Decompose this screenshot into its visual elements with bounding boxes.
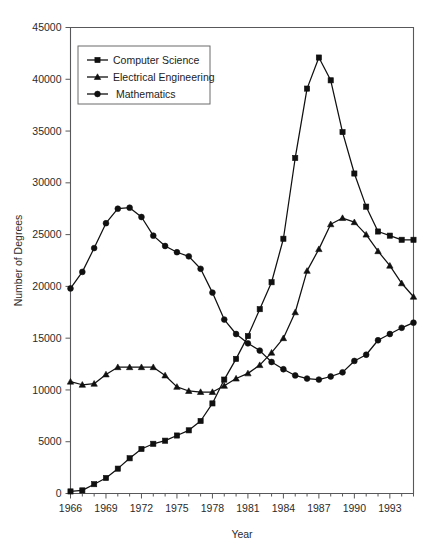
y-tick-label: 30000 [32,176,61,188]
marker-circle [174,249,180,255]
marker-circle [399,325,405,331]
y-tick-label: 35000 [32,125,61,137]
y-tick-label: 0 [56,487,62,499]
x-tick-label: 1972 [130,502,154,514]
y-tick-label: 10000 [32,384,61,396]
data-series [67,55,416,494]
marker-circle [304,376,310,382]
marker-triangle [280,335,286,341]
marker-square [210,401,215,406]
marker-square [375,229,380,234]
marker-circle [233,331,239,337]
chart-legend: Computer ScienceElectrical EngineeringMa… [78,46,215,104]
marker-circle [139,214,145,220]
marker-triangle [67,378,73,384]
marker-circle [375,337,381,343]
marker-circle [328,374,334,380]
marker-circle [257,348,263,354]
chart-container: 0500010000150002000025000300003500040000… [0,0,436,549]
marker-square [269,280,274,285]
marker-square [198,418,203,423]
marker-square [92,482,97,487]
marker-circle [68,286,74,292]
marker-circle [162,243,168,249]
series-electrical-engineering [67,215,416,395]
marker-square [95,57,100,62]
marker-square [233,356,238,361]
marker-circle [95,91,101,97]
marker-square [139,446,144,451]
series-mathematics [68,205,417,383]
x-tick-label: 1984 [272,502,296,514]
marker-square [245,333,250,338]
series-line [71,218,414,392]
y-tick-label: 25000 [32,228,61,240]
y-tick-label: 15000 [32,332,61,344]
marker-circle [221,317,227,323]
marker-circle [387,331,393,337]
marker-square [257,307,262,312]
marker-triangle [103,371,109,377]
marker-square [316,55,321,60]
series-line [71,58,414,492]
marker-square [364,204,369,209]
legend-label-mathematics: Mathematics [116,88,176,100]
marker-square [163,438,168,443]
y-tick-label: 40000 [32,73,61,85]
marker-circle [411,320,417,326]
axis-titles: YearNumber of Degrees [12,215,253,540]
marker-square [328,78,333,83]
marker-triangle [292,309,298,315]
line-chart: 0500010000150002000025000300003500040000… [0,0,436,549]
marker-triangle [245,370,251,376]
legend-label-computer-science: Computer Science [113,54,200,66]
marker-triangle [304,268,310,274]
marker-circle [127,205,133,211]
x-tick-label: 1981 [236,502,260,514]
marker-circle [210,290,216,296]
y-axis-title: Number of Degrees [12,215,24,307]
y-tick-label: 45000 [32,21,61,33]
marker-square [127,456,132,461]
marker-square [352,171,357,176]
marker-circle [292,373,298,379]
marker-square [68,489,73,494]
marker-triangle [162,372,168,378]
x-tick-label: 1993 [378,502,402,514]
series-line [71,208,414,380]
marker-circle [79,269,85,275]
x-tick-label: 1990 [343,502,367,514]
marker-triangle [328,221,334,227]
marker-square [293,155,298,160]
marker-triangle [339,215,345,221]
marker-circle [269,359,275,365]
y-tick-label: 20000 [32,280,61,292]
marker-square [304,86,309,91]
x-tick-label: 1978 [201,502,225,514]
x-tick-label: 1975 [165,502,189,514]
marker-square [103,475,108,480]
marker-square [222,377,227,382]
y-tick-label: 5000 [38,435,62,447]
marker-square [411,237,416,242]
marker-square [115,466,120,471]
marker-square [174,433,179,438]
marker-circle [363,352,369,358]
marker-circle [103,220,109,226]
marker-circle [150,233,156,239]
marker-square [281,236,286,241]
legend-label-electrical-engineering: Electrical Engineering [113,71,215,83]
marker-circle [115,206,121,212]
marker-triangle [316,246,322,252]
marker-square [186,428,191,433]
marker-circle [91,245,97,251]
marker-square [151,441,156,446]
marker-square [80,488,85,493]
marker-square [387,233,392,238]
x-tick-label: 1969 [94,502,118,514]
marker-circle [186,253,192,259]
marker-circle [198,266,204,272]
marker-square [340,129,345,134]
marker-square [399,237,404,242]
series-computer-science [68,55,416,494]
